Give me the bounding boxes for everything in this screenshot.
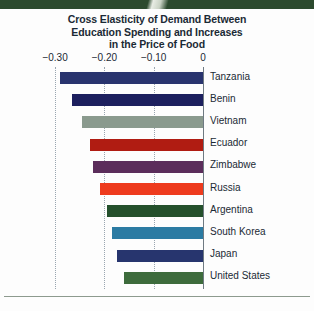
plot-area: −0.30−0.20−0.100 TanzaniaBeninVietnamEcu… [0,52,314,292]
footer-rule [4,296,310,297]
bar-benin [72,94,203,106]
bar-label-ecuador: Ecuador [210,137,247,148]
bar-russia [100,183,203,195]
bar-south-korea [112,227,203,239]
bar-row: Benin [0,89,314,111]
bar-vietnam [82,116,203,128]
x-axis-tick-labels: −0.30−0.20−0.100 [0,52,314,66]
x-tick-label-3: 0 [200,52,206,63]
banner-sliver-decoration [95,0,220,9]
bar-row: Tanzania [0,67,314,89]
bar-label-zimbabwe: Zimbabwe [210,159,256,170]
bar-united-states [124,272,203,284]
bar-label-benin: Benin [210,93,236,104]
bar-japan [117,250,203,262]
chart-title-line-2: Education Spending and Increases [0,26,314,39]
figure-container: Cross Elasticity of Demand Between Educa… [0,0,314,311]
bar-row: Argentina [0,200,314,222]
bar-row: South Korea [0,222,314,244]
chart-title-line-3: in the Price of Food [0,38,314,51]
chart-title: Cross Elasticity of Demand Between Educa… [0,13,314,51]
x-tick-label-2: −0.10 [141,52,166,63]
bar-row: Japan [0,245,314,267]
bar-row: Ecuador [0,134,314,156]
bar-row: Russia [0,178,314,200]
bar-row: United States [0,267,314,289]
bar-label-united-states: United States [210,270,270,281]
bar-zimbabwe [93,161,203,173]
x-tick-label-1: −0.20 [92,52,117,63]
bar-label-argentina: Argentina [210,204,253,215]
bar-label-tanzania: Tanzania [210,71,250,82]
chart-title-line-1: Cross Elasticity of Demand Between [0,13,314,26]
bar-label-south-korea: South Korea [210,226,266,237]
bar-rows: TanzaniaBeninVietnamEcuadorZimbabweRussi… [0,67,314,289]
bar-label-russia: Russia [210,182,241,193]
bar-label-japan: Japan [210,248,237,259]
bar-row: Zimbabwe [0,156,314,178]
x-tick-label-0: −0.30 [42,52,67,63]
bar-label-vietnam: Vietnam [210,115,247,126]
bar-argentina [107,205,203,217]
top-banner [0,0,314,9]
bar-row: Vietnam [0,111,314,133]
bar-tanzania [60,72,203,84]
bar-ecuador [90,139,203,151]
